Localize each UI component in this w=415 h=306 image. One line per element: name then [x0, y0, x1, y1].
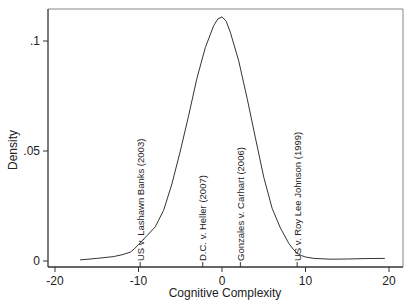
annotation-label: Gonzales v. Carhart (2006): [235, 147, 246, 261]
x-axis-label: Cognitive Complexity: [169, 286, 282, 300]
annotation-label: US v. Roy Lee Johnson (1999): [292, 132, 303, 261]
density-chart: -20-1001020 0.05.1 US v. Lashawn Banks (…: [0, 0, 415, 306]
x-tick-label: -20: [46, 274, 64, 288]
annotation-label: D.C. v. Heller (2007): [197, 175, 208, 261]
x-tick-label: 20: [382, 274, 396, 288]
y-tick-label: .05: [23, 144, 40, 158]
y-tick-label: .1: [30, 34, 40, 48]
x-tick-label: 10: [299, 274, 313, 288]
x-tick-label: -10: [130, 274, 148, 288]
y-axis-label: Density: [6, 130, 20, 170]
y-tick-label: 0: [33, 254, 40, 268]
